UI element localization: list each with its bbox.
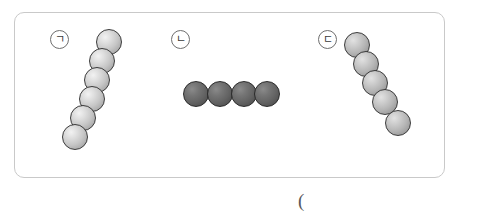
caption-paren: (	[298, 191, 304, 210]
group-label-2: ㄴ	[171, 30, 190, 49]
sphere-group3-5	[385, 110, 411, 136]
figure-stage: ㄱ ㄴ ㄷ (	[0, 0, 500, 222]
sphere-group2-1	[183, 81, 209, 107]
group-label-1: ㄱ	[50, 30, 69, 49]
sphere-group1-6	[62, 124, 88, 150]
sphere-group2-4	[254, 81, 280, 107]
group-label-3: ㄷ	[318, 30, 337, 49]
sphere-group2-2	[207, 81, 233, 107]
